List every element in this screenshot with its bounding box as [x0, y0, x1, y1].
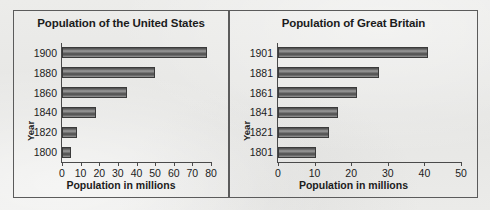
bar-row: 1860: [62, 87, 211, 98]
x-axis-title-great-britain: Population in millions: [230, 179, 477, 191]
plot-wrap-great-britain: Year 19011881186118411821180101020304050…: [230, 39, 477, 197]
bar-row: 1881: [278, 67, 461, 78]
plot-area-united-states: 1900188018601840182018000102030405060708…: [61, 43, 211, 163]
y-tick-label: 1900: [34, 47, 57, 59]
x-tick-label: 60: [168, 167, 180, 179]
bar: [62, 107, 96, 118]
bar: [62, 127, 77, 138]
x-tick-label: 80: [205, 167, 217, 179]
bar: [62, 67, 155, 78]
y-tick-label: 1821: [250, 126, 273, 138]
x-tick-mark: [461, 162, 462, 166]
y-tick-label: 1840: [34, 106, 57, 118]
plot-area-great-britain: 19011881186118411821180101020304050: [277, 43, 461, 163]
bar-row: 1841: [278, 107, 461, 118]
x-tick-mark: [424, 162, 425, 166]
bar: [278, 107, 338, 118]
x-tick-label: 20: [93, 167, 105, 179]
bar: [278, 87, 357, 98]
bar-row: 1901: [278, 47, 461, 58]
x-tick-label: 40: [419, 167, 431, 179]
bar-row: 1801: [278, 147, 461, 158]
chart-panel-united-states: Population of the United States Year 190…: [13, 10, 229, 198]
y-tick-label: 1881: [250, 67, 273, 79]
x-tick-mark: [99, 162, 100, 166]
bar: [278, 147, 316, 158]
x-tick-mark: [315, 162, 316, 166]
x-tick-mark: [155, 162, 156, 166]
bar: [278, 67, 379, 78]
y-tick-label: 1820: [34, 126, 57, 138]
x-tick-mark: [118, 162, 119, 166]
x-tick-mark: [211, 162, 212, 166]
chart-title-united-states: Population of the United States: [14, 17, 228, 29]
bar-row: 1900: [62, 47, 211, 58]
x-tick-label: 10: [75, 167, 87, 179]
x-tick-label: 20: [345, 167, 357, 179]
figure-container: Population of the United States Year 190…: [13, 10, 478, 198]
x-tick-mark: [174, 162, 175, 166]
x-tick-mark: [388, 162, 389, 166]
x-tick-label: 0: [59, 167, 65, 179]
y-tick-label: 1861: [250, 87, 273, 99]
x-tick-mark: [137, 162, 138, 166]
bar: [62, 47, 207, 58]
y-tick-label: 1841: [250, 106, 273, 118]
x-axis-title-united-states: Population in millions: [14, 179, 228, 191]
y-tick-label: 1901: [250, 47, 273, 59]
x-tick-label: 40: [131, 167, 143, 179]
x-tick-mark: [81, 162, 82, 166]
bar: [62, 87, 127, 98]
bar-row: 1880: [62, 67, 211, 78]
plot-wrap-united-states: Year 19001880186018401820180001020304050…: [14, 39, 228, 197]
bar: [278, 47, 428, 58]
x-tick-label: 50: [455, 167, 467, 179]
x-tick-label: 30: [382, 167, 394, 179]
x-tick-mark: [351, 162, 352, 166]
bar-row: 1800: [62, 147, 211, 158]
x-tick-mark: [62, 162, 63, 166]
y-tick-label: 1880: [34, 67, 57, 79]
bar-row: 1820: [62, 127, 211, 138]
bar-row: 1840: [62, 107, 211, 118]
x-tick-label: 0: [275, 167, 281, 179]
x-tick-label: 30: [112, 167, 124, 179]
y-tick-label: 1860: [34, 87, 57, 99]
chart-title-great-britain: Population of Great Britain: [230, 17, 477, 29]
y-tick-label: 1801: [250, 146, 273, 158]
x-tick-mark: [192, 162, 193, 166]
bar: [62, 147, 71, 158]
x-tick-label: 10: [309, 167, 321, 179]
bar-row: 1861: [278, 87, 461, 98]
chart-panel-great-britain: Population of Great Britain Year 1901188…: [229, 10, 478, 198]
x-tick-label: 70: [187, 167, 199, 179]
x-tick-label: 50: [149, 167, 161, 179]
y-tick-label: 1800: [34, 146, 57, 158]
x-tick-mark: [278, 162, 279, 166]
bar-row: 1821: [278, 127, 461, 138]
bar: [278, 127, 329, 138]
